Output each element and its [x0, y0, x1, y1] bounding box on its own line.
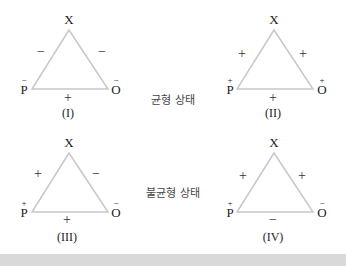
edge-xo-sign: + [299, 46, 307, 62]
triangle-lines [0, 0, 346, 266]
node-p: P+ [226, 205, 233, 221]
node-o-sign: + [319, 76, 324, 85]
unbalanced-state-label: 불균형 상태 [146, 184, 200, 200]
node-o: O+ [317, 82, 326, 98]
bottom-divider-band [0, 254, 346, 266]
node-x: X [269, 135, 278, 151]
node-x: X [269, 12, 278, 28]
caption: (I) [62, 107, 74, 119]
edge-xp-sign: + [238, 46, 246, 62]
node-p: P− [20, 82, 27, 98]
node-o: O− [317, 205, 326, 221]
edge-po-sign: + [63, 212, 71, 228]
edge-xp-sign: + [239, 168, 247, 184]
node-o-sign: − [113, 199, 118, 208]
node-p-sign: − [21, 76, 26, 85]
edge-xp-sign: + [34, 166, 42, 182]
node-p-sign: + [21, 199, 26, 208]
node-p-sign: + [227, 76, 232, 85]
node-p-sign: + [227, 199, 232, 208]
balanced-state-label: 균형 상태 [151, 91, 195, 107]
node-p: P+ [20, 205, 27, 221]
node-o: O− [111, 82, 120, 98]
edge-xo-sign: − [92, 166, 100, 182]
caption: (II) [265, 107, 281, 119]
node-x: X [64, 12, 73, 28]
node-p: P+ [226, 82, 233, 98]
node-x: X [64, 135, 73, 151]
node-o-sign: − [113, 76, 118, 85]
edge-xo-sign: − [98, 44, 106, 60]
caption: (III) [57, 231, 77, 243]
edge-xp-sign: − [37, 44, 45, 60]
node-o: O− [111, 205, 120, 221]
edge-po-sign: + [269, 90, 277, 106]
edge-po-sign: − [269, 212, 277, 228]
edge-xo-sign: + [298, 168, 306, 184]
node-o-sign: − [319, 199, 324, 208]
caption: (IV) [263, 231, 284, 243]
edge-po-sign: + [64, 90, 72, 106]
